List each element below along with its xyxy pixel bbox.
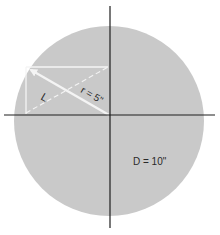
- circle-shape: [14, 26, 204, 216]
- circle-diagram: L r = 5" D = 10": [0, 0, 220, 235]
- diameter-label: D = 10": [133, 156, 167, 167]
